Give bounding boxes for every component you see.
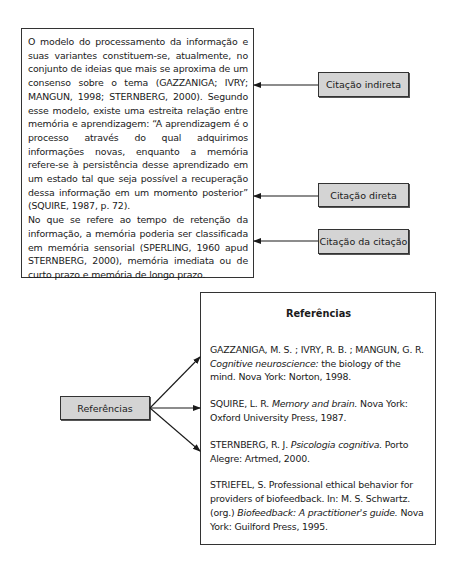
label-indirect-citation: Citação indireta	[318, 72, 409, 97]
arrow-ref-gazzaniga	[150, 357, 200, 408]
citation-example-text-box: O modelo do processamento da informação …	[21, 28, 254, 278]
reference-entry-sternberg: STERNBERG, R. J. Psicologia cognitiva. P…	[210, 438, 427, 466]
reference-entry-gazzaniga: GAZZANIGA, M. S. ; IVRY, R. B. ; MANGUN,…	[210, 343, 427, 384]
paragraph-2: No que se refere ao tempo de retenção da…	[28, 213, 248, 282]
label-citation-of-citation: Citação da citação	[318, 229, 409, 254]
reference-entry-squire: SQUIRE, L. R. Memory and brain. Nova Yor…	[210, 397, 427, 425]
references-box: Referências GAZZANIGA, M. S. ; IVRY, R. …	[200, 292, 436, 545]
paragraph-1: O modelo do processamento da informação …	[28, 35, 248, 213]
references-title: Referências	[210, 307, 427, 321]
label-direct-citation: Citação direta	[318, 183, 409, 207]
label-references: Referências	[60, 396, 150, 420]
arrow-ref-sternberg	[150, 408, 200, 451]
reference-entry-striefel: STRIEFEL, S. Professional ethical behavi…	[210, 478, 427, 533]
